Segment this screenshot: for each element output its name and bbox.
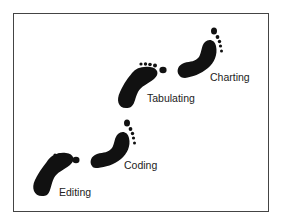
footprint-icon xyxy=(0,0,282,222)
step-label: Charting xyxy=(210,71,250,83)
